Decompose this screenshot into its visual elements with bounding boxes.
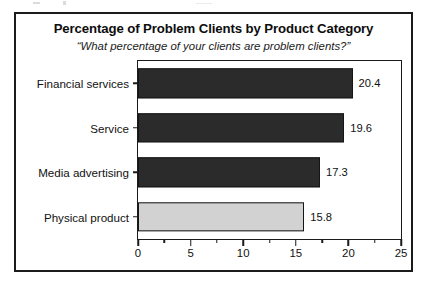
bar-band: Media advertising 17.3 — [138, 150, 401, 195]
x-axis-minor-tick — [374, 239, 376, 243]
x-axis-tick — [295, 239, 297, 246]
figure-frame: Percentage of Problem Clients by Product… — [14, 12, 413, 272]
bar-band: Service 19.6 — [138, 106, 401, 151]
bar-media-advertising — [138, 158, 320, 187]
x-axis-tick — [242, 239, 244, 246]
plot-area: Financial services 20.4 Service 19.6 Med… — [137, 60, 402, 240]
x-axis-tick — [400, 239, 402, 246]
bar-financial-services — [138, 69, 353, 98]
x-axis-tick-label: 25 — [395, 247, 408, 259]
x-axis-minor-tick — [321, 239, 323, 243]
x-axis-tick — [137, 239, 139, 246]
bar-value-label: 15.8 — [310, 211, 332, 223]
x-axis-tick-label: 15 — [289, 247, 302, 259]
chart-title: Percentage of Problem Clients by Product… — [16, 21, 411, 36]
x-axis-tick — [348, 239, 350, 246]
category-label: Service — [90, 121, 129, 134]
scan-artifact — [196, 3, 212, 4]
bar-band: Financial services 20.4 — [138, 61, 401, 106]
bar-value-label: 19.6 — [350, 122, 372, 134]
x-axis-minor-tick — [269, 239, 271, 243]
category-label: Financial services — [37, 77, 129, 90]
bar-band: Physical product 15.8 — [138, 195, 401, 240]
x-axis-tick-label: 10 — [237, 247, 250, 259]
x-axis-tick — [190, 239, 192, 246]
scan-artifact — [63, 1, 66, 5]
x-axis-tick-label: 0 — [135, 247, 141, 259]
bar-value-label: 20.4 — [359, 77, 381, 89]
x-axis-tick-label: 5 — [187, 247, 193, 259]
chart-subtitle: “What percentage of your clients are pro… — [16, 40, 411, 52]
category-label: Media advertising — [38, 166, 129, 179]
x-axis-minor-tick — [216, 239, 218, 243]
category-label: Physical product — [44, 210, 129, 223]
plot-area-wrapper: Financial services 20.4 Service 19.6 Med… — [137, 60, 402, 240]
bar-service — [138, 113, 344, 142]
x-axis-minor-tick — [164, 239, 166, 243]
bar-physical-product — [138, 202, 304, 231]
bar-value-label: 17.3 — [326, 166, 348, 178]
x-axis-tick-label: 20 — [342, 247, 355, 259]
scan-artifact — [33, 2, 40, 4]
